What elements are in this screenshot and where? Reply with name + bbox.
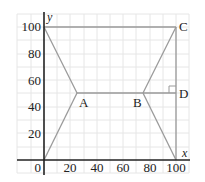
- x-tick-80: 80: [144, 160, 157, 175]
- segment-origin-to-a: [44, 93, 77, 160]
- segment-b-to-c: [143, 27, 176, 93]
- origin-label: 0: [35, 160, 42, 175]
- x-tick-20: 20: [64, 160, 77, 175]
- x-tick-60: 60: [117, 160, 130, 175]
- x-tick-40: 40: [91, 160, 104, 175]
- y-tick-40: 40: [28, 99, 41, 114]
- y-axis-label: y: [46, 10, 53, 24]
- segment-b-to-100-0: [143, 93, 176, 160]
- x-axis-label: x: [181, 146, 188, 160]
- right-angle-marker: [169, 86, 176, 93]
- y-tick-60: 60: [28, 73, 41, 88]
- y-tick-100: 100: [22, 19, 42, 34]
- point-label-b: B: [133, 95, 142, 110]
- x-tick-100: 100: [166, 160, 186, 175]
- y-tick-80: 80: [28, 46, 41, 61]
- point-label-c: C: [179, 19, 188, 34]
- point-label-d: D: [179, 86, 188, 101]
- point-label-a: A: [79, 95, 89, 110]
- segment-0-100-to-a: [44, 27, 77, 93]
- y-tick-20: 20: [28, 126, 41, 141]
- coordinate-diagram: y x 100 80 60 40 20 0 20 40 60 80 100 A …: [0, 0, 205, 182]
